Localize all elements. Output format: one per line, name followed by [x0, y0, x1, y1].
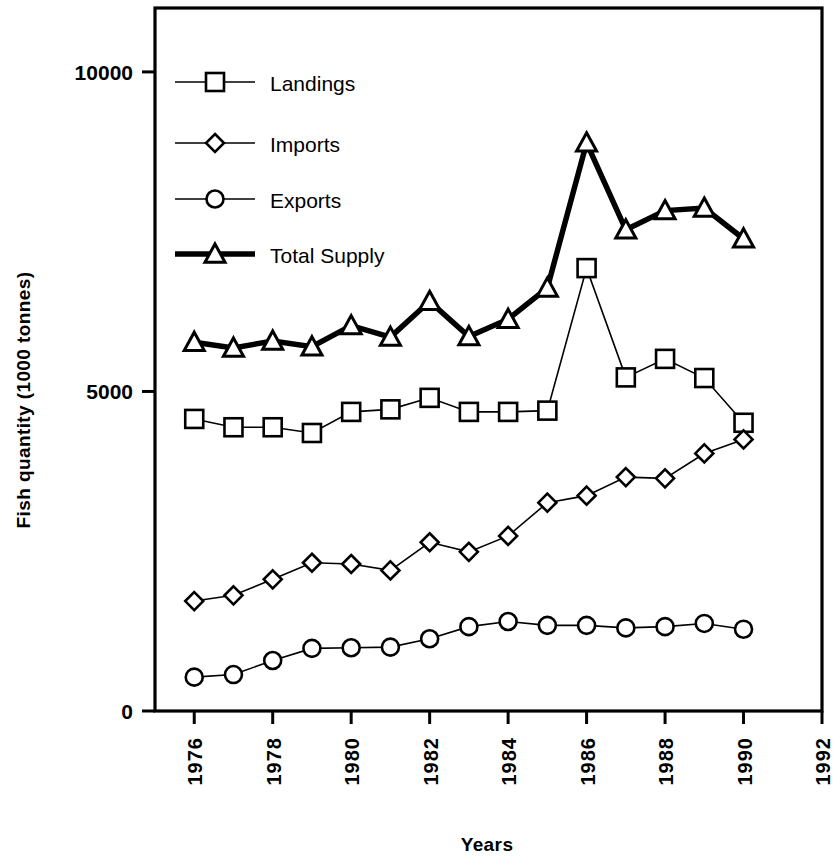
chart-background — [0, 0, 834, 864]
data-point-square — [656, 350, 674, 368]
y-tick-label: 0 — [121, 700, 133, 723]
x-tick-label: 1986 — [577, 737, 599, 786]
data-point-circle — [617, 619, 634, 636]
legend-label: Imports — [270, 133, 340, 156]
legend-label: Landings — [270, 72, 355, 95]
y-tick-label: 5000 — [86, 380, 133, 403]
data-point-square — [499, 403, 517, 421]
x-tick-label: 1988 — [655, 737, 677, 786]
y-tick-label: 10000 — [75, 61, 133, 84]
data-point-square — [538, 402, 556, 420]
data-point-circle — [460, 618, 477, 635]
data-point-square — [185, 410, 203, 428]
data-point-square — [342, 403, 360, 421]
data-point-circle — [578, 617, 595, 634]
data-point-square — [303, 424, 321, 442]
data-point-circle — [735, 621, 752, 638]
data-point-circle — [186, 669, 203, 686]
data-point-square — [460, 403, 478, 421]
x-tick-label: 1978 — [263, 737, 285, 786]
data-point-circle — [343, 639, 360, 656]
data-point-square — [617, 368, 635, 386]
data-point-circle — [696, 615, 713, 632]
x-tick-label: 1992 — [812, 737, 834, 786]
data-point-circle — [303, 640, 320, 657]
legend-marker-square — [206, 73, 224, 91]
x-tick-label: 1990 — [734, 737, 756, 786]
data-point-circle — [264, 652, 281, 669]
legend-label: Total Supply — [270, 244, 385, 267]
data-point-circle — [382, 639, 399, 656]
data-point-square — [695, 369, 713, 387]
data-point-square — [381, 400, 399, 418]
data-point-square — [224, 418, 242, 436]
data-point-circle — [421, 630, 438, 647]
legend-label: Exports — [270, 189, 341, 212]
legend-marker-circle — [207, 191, 224, 208]
data-point-circle — [225, 666, 242, 683]
data-point-circle — [539, 617, 556, 634]
data-point-square — [421, 389, 439, 407]
y-axis-title: Fish quantity (1000 tonnes) — [13, 272, 34, 529]
figure-container: 0500010000 19761978198019821984198619881… — [0, 0, 834, 864]
data-point-circle — [657, 618, 674, 635]
x-tick-label: 1982 — [420, 737, 442, 786]
line-chart: 0500010000 19761978198019821984198619881… — [0, 0, 834, 864]
x-tick-label: 1980 — [341, 737, 363, 786]
data-point-square — [578, 259, 596, 277]
data-point-circle — [500, 613, 517, 630]
x-tick-label: 1984 — [498, 737, 520, 786]
data-point-square — [264, 418, 282, 436]
x-axis-title: Years — [461, 834, 514, 855]
x-tick-label: 1976 — [184, 737, 206, 786]
